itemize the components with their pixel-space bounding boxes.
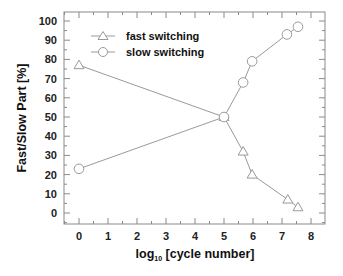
y-tick-label: 70 (45, 73, 57, 85)
y-tick-label: 20 (45, 169, 57, 181)
y-tick-label: 90 (45, 34, 57, 46)
triangle-marker-icon (74, 60, 84, 69)
y-tick-label: 40 (45, 130, 57, 142)
circle-marker-icon (219, 112, 229, 122)
x-tick-label: 8 (308, 230, 314, 242)
y-tick-label: 10 (45, 188, 57, 200)
y-tick-label: 0 (51, 207, 57, 219)
x-tick-label: 0 (76, 230, 82, 242)
x-tick-label: 5 (221, 230, 227, 242)
x-tick-label: 3 (163, 230, 169, 242)
circle-marker-icon (282, 30, 292, 40)
legend-label-slow: slow switching (126, 46, 204, 58)
circle-marker-icon (74, 164, 84, 174)
circle-marker-icon (99, 48, 108, 57)
triangle-marker-icon (247, 170, 257, 179)
triangle-marker-icon (283, 195, 293, 204)
y-tick-label: 50 (45, 111, 57, 123)
x-tick-label: 2 (134, 230, 140, 242)
x-tick-label: 6 (250, 230, 256, 242)
legend: fast switching slow switching (91, 30, 204, 58)
y-tick-label: 80 (45, 53, 57, 65)
y-tick-label: 30 (45, 149, 57, 161)
series-line-fast (79, 65, 298, 207)
x-tick-label: 7 (279, 230, 285, 242)
chart: 0123456780102030405060708090100 fast swi… (0, 0, 343, 276)
plot-frame (64, 12, 325, 224)
y-tick-label: 60 (45, 92, 57, 104)
circle-marker-icon (293, 22, 303, 32)
axis-ticks (64, 12, 325, 224)
x-axis-title: log10 [cycle number] (136, 247, 255, 262)
x-tick-label: 1 (105, 230, 111, 242)
legend-label-fast: fast switching (126, 30, 199, 42)
y-axis-title: Fast/Slow Part [%] (15, 63, 29, 172)
triangle-marker-icon (238, 147, 248, 156)
plot-border (64, 12, 325, 224)
y-tick-label: 100 (39, 15, 57, 27)
circle-marker-icon (238, 78, 248, 88)
x-tick-label: 4 (192, 230, 199, 242)
circle-marker-icon (247, 57, 257, 67)
triangle-marker-icon (293, 202, 303, 211)
